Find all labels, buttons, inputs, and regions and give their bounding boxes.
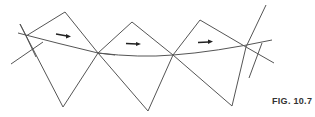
curved-path [18,33,272,56]
long-upper-line [246,5,266,47]
left-auxiliary-line [11,42,43,64]
arrow-icon [126,42,141,46]
square-3 [173,20,246,106]
square-2 [98,22,173,111]
right-short-line [249,43,262,78]
figure-caption: FIG. 10.7 [272,96,312,106]
square-1-left-edge [26,36,36,57]
zigzag-squares-diagram [0,0,315,117]
square-1 [20,12,98,107]
arrow-icon [198,40,213,45]
arrow-icon [56,34,71,39]
